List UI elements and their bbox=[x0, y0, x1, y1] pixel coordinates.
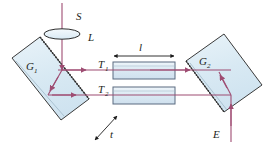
lens-icon bbox=[44, 29, 80, 39]
converging-lens bbox=[44, 29, 80, 39]
thickness-dimension-line bbox=[95, 116, 117, 140]
label-tube-t1-subscript: 1 bbox=[105, 65, 109, 73]
label-tube-t2-base: T bbox=[98, 83, 105, 95]
label-thickness: t bbox=[110, 128, 114, 140]
label-length: l bbox=[139, 41, 142, 53]
label-tube-t1: T 1 bbox=[98, 58, 109, 73]
optics-diagram-figure: S L G 1 G 2 T 1 T 2 l t E bbox=[0, 0, 275, 150]
label-tube-t1-base: T bbox=[98, 58, 105, 70]
label-eye: E bbox=[212, 128, 220, 140]
beam-splitter-plate-1-body bbox=[12, 37, 89, 120]
label-plate-g2-base: G bbox=[199, 55, 207, 67]
label-source: S bbox=[76, 10, 82, 22]
label-plate-g1-base: G bbox=[26, 60, 34, 72]
label-lens: L bbox=[87, 31, 94, 43]
label-tube-t2-subscript: 2 bbox=[105, 90, 109, 98]
label-plate-g2-subscript: 2 bbox=[207, 62, 211, 70]
diagram-canvas: S L G 1 G 2 T 1 T 2 l t E bbox=[0, 0, 275, 150]
thickness-dimension bbox=[95, 116, 117, 140]
beam-splitter-g1 bbox=[12, 37, 89, 120]
beam-splitter-plate-2-body bbox=[186, 34, 262, 112]
label-tube-t2: T 2 bbox=[98, 83, 109, 98]
label-plate-g1-subscript: 1 bbox=[34, 67, 38, 75]
beam-splitter-g2 bbox=[186, 34, 262, 112]
